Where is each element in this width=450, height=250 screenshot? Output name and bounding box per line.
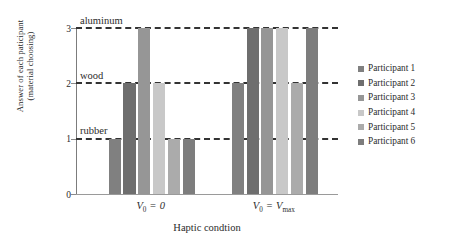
y-tick-label-0: 0 — [66, 190, 71, 200]
y-tick-label-1: 1 — [66, 135, 71, 145]
legend: Participant 1Participant 2Participant 3P… — [358, 64, 415, 147]
y-tick-mark-2 — [71, 83, 76, 84]
bars-layer — [77, 28, 338, 194]
legend-swatch-icon-participant-1 — [358, 66, 364, 72]
bar-V00-p1 — [109, 139, 121, 194]
x-axis-line — [76, 194, 338, 195]
bar-V0Vmax-p3 — [261, 28, 273, 194]
legend-swatch-icon-participant-5 — [358, 124, 364, 130]
legend-label-participant-4: Participant 4 — [368, 108, 415, 117]
x-tick-label-2: V0 = Vmax — [253, 200, 295, 214]
bar-V0Vmax-p6 — [306, 28, 318, 194]
y-tick-mark-1 — [71, 139, 76, 140]
legend-label-participant-3: Participant 3 — [368, 93, 415, 102]
legend-item-participant-4[interactable]: Participant 4 — [358, 108, 415, 117]
legend-label-participant-2: Participant 2 — [368, 79, 415, 88]
legend-label-participant-1: Participant 1 — [368, 64, 415, 73]
bar-V00-p6 — [183, 139, 195, 194]
legend-item-participant-2[interactable]: Participant 2 — [358, 79, 415, 88]
bar-V00-p2 — [123, 83, 135, 194]
y-tick-mark-0 — [71, 194, 76, 195]
bar-V00-p3 — [138, 28, 150, 194]
bar-V0Vmax-p4 — [276, 28, 288, 194]
bar-V00-p4 — [153, 83, 165, 194]
legend-swatch-icon-participant-4 — [358, 110, 364, 116]
y-tick-label-2: 2 — [66, 80, 71, 90]
bar-V00-p5 — [168, 139, 180, 194]
bar-V0Vmax-p1 — [232, 83, 244, 194]
plot-area: 0123 aluminumwoodrubber V0 = 0V0 = Vmax — [76, 28, 338, 195]
legend-label-participant-5: Participant 5 — [368, 123, 415, 132]
bar-V0Vmax-p5 — [291, 83, 303, 194]
bar-V0Vmax-p2 — [247, 28, 259, 194]
material-label-aluminum: aluminum — [80, 16, 123, 27]
y-tick-mark-3 — [71, 28, 76, 29]
x-tick-label-1: V0 = 0 — [136, 200, 164, 214]
legend-item-participant-6[interactable]: Participant 6 — [358, 137, 415, 146]
legend-swatch-icon-participant-6 — [358, 139, 364, 145]
y-axis-title-line-2: (material choosing) — [26, 32, 36, 101]
bar-chart: Answer of each paticipant (material choo… — [0, 0, 450, 250]
y-axis-title: Answer of each paticipant (material choo… — [15, 0, 37, 154]
legend-swatch-icon-participant-3 — [358, 95, 364, 101]
legend-label-participant-6: Participant 6 — [368, 137, 415, 146]
legend-item-participant-1[interactable]: Participant 1 — [358, 64, 415, 73]
legend-item-participant-3[interactable]: Participant 3 — [358, 93, 415, 102]
x-axis-title: Haptic condtion — [76, 222, 338, 233]
legend-swatch-icon-participant-2 — [358, 80, 364, 86]
y-tick-label-3: 3 — [66, 24, 71, 34]
legend-item-participant-5[interactable]: Participant 5 — [358, 123, 415, 132]
